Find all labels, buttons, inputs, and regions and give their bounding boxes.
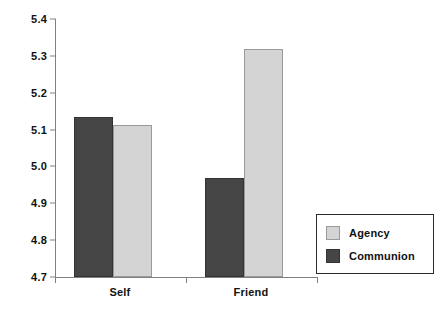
plot-area: 5.4 5.3 5.2 5.1 5.0 4.9 4.8 4.7	[56, 19, 318, 277]
y-tick-label: 5.0	[31, 160, 56, 172]
bar-self-communion	[74, 117, 113, 277]
legend-label-communion: Communion	[349, 250, 415, 262]
y-tick-label: 4.7	[31, 271, 56, 283]
legend: Agency Communion	[316, 214, 434, 274]
x-axis-label-self: Self	[110, 286, 131, 298]
bar-chart: 5.4 5.3 5.2 5.1 5.0 4.9 4.8 4.7	[0, 0, 436, 318]
legend-item-agency[interactable]: Agency	[326, 223, 426, 242]
y-tick-label: 4.8	[31, 234, 56, 246]
y-tick-label: 5.4	[31, 13, 56, 25]
bar-self-agency	[113, 125, 152, 277]
bar-friend-agency	[244, 49, 283, 278]
legend-item-communion[interactable]: Communion	[326, 246, 426, 265]
x-tick-mark	[317, 277, 318, 283]
y-tick-label: 5.3	[31, 50, 56, 62]
y-tick-label: 5.1	[31, 124, 56, 136]
x-tick-mark	[186, 277, 187, 283]
x-tick-mark	[55, 277, 56, 283]
legend-swatch-communion-icon	[326, 249, 340, 263]
y-tick-label: 4.9	[31, 197, 56, 209]
legend-label-agency: Agency	[349, 227, 390, 239]
bar-friend-communion	[205, 178, 244, 278]
legend-swatch-agency-icon	[326, 226, 340, 240]
x-axis-label-friend: Friend	[234, 286, 269, 298]
y-tick-label: 5.2	[31, 87, 56, 99]
